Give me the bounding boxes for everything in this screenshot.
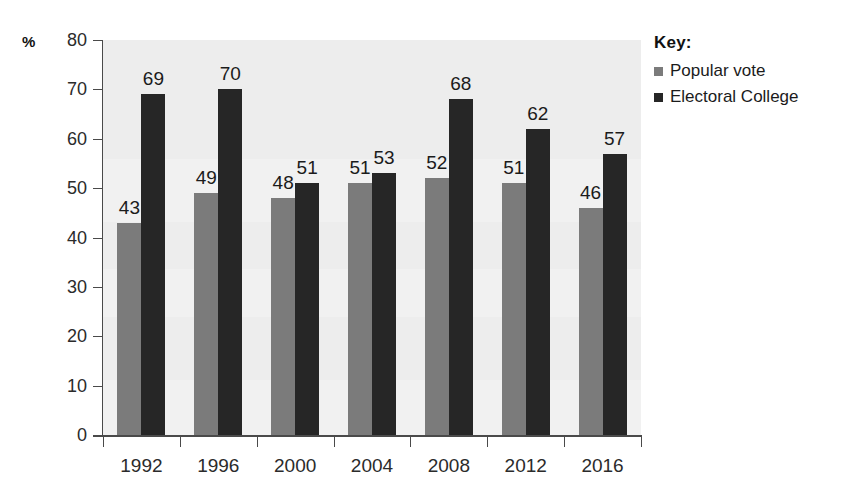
- y-tick-label: 60: [47, 130, 87, 148]
- bar-electoral-college-1996: [218, 89, 242, 435]
- square-black-icon: [654, 93, 663, 102]
- bar-value-label: 53: [359, 148, 409, 167]
- bar-chart: % 01020304050607080 43694970485151535268…: [0, 0, 844, 498]
- x-axis-line: [93, 435, 642, 437]
- x-tick-label: 1996: [178, 456, 258, 475]
- bar-value-label: 46: [566, 183, 616, 202]
- y-tick-label: 0: [47, 426, 87, 444]
- bar-value-label: 69: [128, 69, 178, 88]
- y-tick-mark: [93, 336, 102, 337]
- x-tick-mark: [641, 437, 642, 447]
- legend-entries: Popular voteElectoral College: [654, 62, 834, 106]
- y-axis-unit-label: %: [22, 33, 35, 50]
- x-tick-mark: [103, 437, 104, 447]
- y-tick-label: 10: [47, 377, 87, 395]
- bar-value-label: 62: [513, 104, 563, 123]
- bar-value-label: 68: [436, 74, 486, 93]
- bar-electoral-college-2004: [372, 173, 396, 435]
- legend-title: Key:: [654, 33, 834, 53]
- legend: Key: Popular voteElectoral College: [654, 33, 834, 113]
- bar-popular-vote-2008: [425, 178, 449, 435]
- y-tick-mark: [93, 188, 102, 189]
- x-tick-label: 2004: [332, 456, 412, 475]
- x-tick-mark: [410, 437, 411, 447]
- bar-value-label: 51: [489, 158, 539, 177]
- bar-popular-vote-1996: [194, 193, 218, 435]
- bar-popular-vote-2004: [348, 183, 372, 435]
- x-tick-mark: [564, 437, 565, 447]
- bar-popular-vote-2000: [271, 198, 295, 435]
- y-tick-mark: [93, 89, 102, 90]
- y-tick-mark: [93, 386, 102, 387]
- bar-value-label: 43: [104, 198, 154, 217]
- y-tick-mark: [93, 287, 102, 288]
- y-tick-label: 70: [47, 80, 87, 98]
- bar-value-label: 70: [205, 64, 255, 83]
- bar-value-label: 52: [412, 153, 462, 172]
- bar-electoral-college-1992: [141, 94, 165, 435]
- legend-item-label: Electoral College: [670, 88, 799, 107]
- x-tick-mark: [180, 437, 181, 447]
- y-tick-mark: [93, 139, 102, 140]
- y-tick-label: 40: [47, 229, 87, 247]
- bar-popular-vote-1992: [117, 223, 141, 435]
- x-tick-label: 2012: [486, 456, 566, 475]
- x-tick-label: 2016: [563, 456, 643, 475]
- bar-value-label: 51: [282, 158, 332, 177]
- legend-item: Popular vote: [654, 62, 834, 81]
- plot-background-band: [103, 40, 641, 159]
- legend-item-label: Popular vote: [670, 62, 765, 81]
- y-tick-mark: [93, 40, 102, 41]
- x-tick-mark: [257, 437, 258, 447]
- x-tick-label: 1992: [101, 456, 181, 475]
- bar-value-label: 57: [590, 129, 640, 148]
- x-tick-mark: [487, 437, 488, 447]
- x-tick-mark: [334, 437, 335, 447]
- x-tick-label: 2000: [255, 456, 335, 475]
- bar-electoral-college-2000: [295, 183, 319, 435]
- plot-area: [103, 40, 641, 435]
- bar-electoral-college-2008: [449, 99, 473, 435]
- y-tick-label: 80: [47, 31, 87, 49]
- y-tick-label: 50: [47, 179, 87, 197]
- bar-value-label: 49: [181, 168, 231, 187]
- y-tick-mark: [93, 238, 102, 239]
- x-tick-label: 2008: [409, 456, 489, 475]
- bar-popular-vote-2016: [579, 208, 603, 435]
- bar-popular-vote-2012: [502, 183, 526, 435]
- square-gray-icon: [654, 67, 663, 76]
- y-tick-label: 30: [47, 278, 87, 296]
- y-tick-label: 20: [47, 327, 87, 345]
- legend-item: Electoral College: [654, 88, 834, 107]
